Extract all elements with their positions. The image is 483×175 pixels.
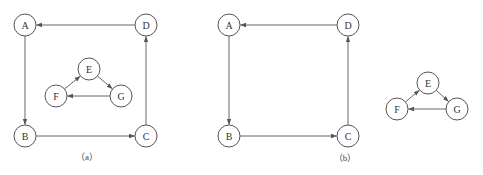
node-a: A xyxy=(14,14,36,36)
node-g: G xyxy=(110,85,132,107)
node-d: D xyxy=(337,14,359,36)
node-a: A xyxy=(218,14,240,36)
node-label: E xyxy=(425,78,431,89)
panel-a: ADBCEFG（a） xyxy=(14,14,157,162)
node-d: D xyxy=(135,14,157,36)
node-label: F xyxy=(394,104,400,115)
node-label: C xyxy=(345,131,352,142)
node-label: B xyxy=(22,131,29,142)
node-f: F xyxy=(45,85,67,107)
node-e: E xyxy=(78,58,100,80)
node-label: F xyxy=(53,91,59,102)
node-label: E xyxy=(86,64,92,75)
node-b: B xyxy=(14,125,36,147)
node-label: G xyxy=(453,104,460,115)
node-c: C xyxy=(135,125,157,147)
node-f: F xyxy=(386,98,408,120)
node-label: D xyxy=(344,20,351,31)
edge-f-to-e xyxy=(65,76,81,89)
panel-b: ADBCEFG（b） xyxy=(218,14,468,163)
node-b: B xyxy=(218,125,240,147)
edge-f-to-e xyxy=(405,90,419,102)
node-label: C xyxy=(143,131,150,142)
node-label: A xyxy=(21,20,29,31)
node-c: C xyxy=(337,125,359,147)
caption-b: （b） xyxy=(334,153,357,163)
node-label: B xyxy=(226,131,233,142)
node-label: A xyxy=(225,20,233,31)
node-e: E xyxy=(417,72,439,94)
node-g: G xyxy=(446,98,468,120)
caption-a: （a） xyxy=(76,152,98,162)
node-label: G xyxy=(117,91,124,102)
directed-graph-figure: ADBCEFG（a） ADBCEFG（b） xyxy=(0,0,483,175)
edge-e-to-g xyxy=(97,76,112,88)
edge-e-to-g xyxy=(436,90,448,101)
node-label: D xyxy=(142,20,149,31)
